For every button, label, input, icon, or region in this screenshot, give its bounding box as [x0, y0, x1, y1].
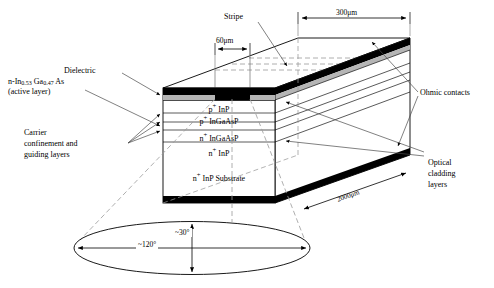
callout-leaders-left: [85, 73, 160, 143]
label-active-layer-note: (active layer): [8, 87, 50, 97]
label-optical-line1: Optical: [428, 158, 452, 168]
label-optical-line3: layers: [428, 180, 447, 190]
figure-canvas: Dielectric n-In0.53 Ga0.47 As (active la…: [0, 0, 494, 288]
layer-label-p-inp: p+ InP: [163, 102, 275, 114]
label-optical-line2: cladding: [428, 169, 456, 179]
layer-label-n-inp-substrate: n+ InP Substrate: [163, 171, 275, 183]
far-field-vertical-angle: ~30°: [173, 228, 192, 237]
label-carrier-line3: guiding layers: [24, 150, 70, 160]
label-carrier-line2: confinement and: [24, 139, 78, 149]
top-ohmic-contact-bar: [163, 88, 275, 95]
layer-label-p-ingaasp: p+ InGaAsP: [163, 114, 275, 126]
far-field-horizontal-angle: ~120°: [136, 240, 158, 249]
label-carrier-line1: Carrier: [24, 128, 47, 138]
active-layer-formula: n-In0.53 Ga0.47 As: [8, 77, 64, 86]
label-dielectric: Dielectric: [64, 66, 96, 76]
layer-label-n-inp: n+ InP: [163, 146, 275, 158]
dimension-label-60um: 60μm: [216, 36, 233, 45]
label-ohmic-contacts: Ohmic contacts: [420, 88, 470, 98]
layer-label-n-ingaasp: n+ InGaAsP: [163, 131, 275, 143]
far-field-ellipse: [74, 222, 310, 275]
stripe-opening: [215, 95, 250, 101]
dimension-label-300um: 300μm: [333, 8, 360, 17]
label-stripe: Stripe: [224, 12, 243, 22]
